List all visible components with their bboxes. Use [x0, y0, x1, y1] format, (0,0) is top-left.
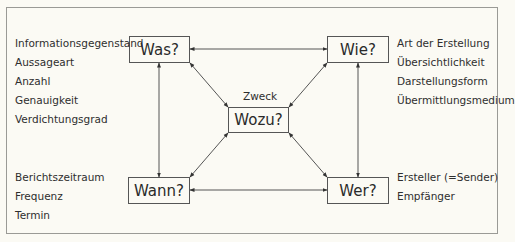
list-item: Ersteller (=Sender)	[397, 168, 498, 187]
list-item: Empfänger	[397, 187, 498, 206]
arrow-wer-wozu	[289, 133, 327, 177]
node-wer: Wer?	[327, 177, 389, 204]
list-wann: Berichtszeitraum Frequenz Termin	[15, 168, 105, 225]
list-item: Übermittlungsmedium	[397, 91, 515, 110]
list-item: Berichtszeitraum	[15, 168, 105, 187]
list-item: Informationsgegenstand	[15, 34, 144, 53]
arrow-wann-wozu	[190, 133, 228, 177]
list-item: Termin	[15, 206, 105, 225]
list-item: Genauigkeit	[15, 91, 144, 110]
list-item: Frequenz	[15, 187, 105, 206]
list-wer: Ersteller (=Sender) Empfänger	[397, 168, 498, 206]
caption-zweck: Zweck	[243, 90, 277, 102]
list-was: Informationsgegenstand Aussageart Anzahl…	[15, 34, 144, 129]
list-item: Verdichtungsgrad	[15, 110, 144, 129]
node-wie: Wie?	[327, 36, 389, 63]
list-item: Art der Erstellung	[397, 34, 515, 53]
arrow-was-wozu	[190, 63, 228, 107]
list-item: Anzahl	[15, 72, 144, 91]
list-wie: Art der Erstellung Übersichtlichkeit Dar…	[397, 34, 515, 110]
list-item: Übersichtlichkeit	[397, 53, 515, 72]
list-item: Darstellungsform	[397, 72, 515, 91]
arrow-wie-wozu	[289, 63, 327, 107]
node-wann: Wann?	[128, 177, 190, 204]
list-item: Aussageart	[15, 53, 144, 72]
node-wozu: Wozu?	[228, 107, 289, 133]
